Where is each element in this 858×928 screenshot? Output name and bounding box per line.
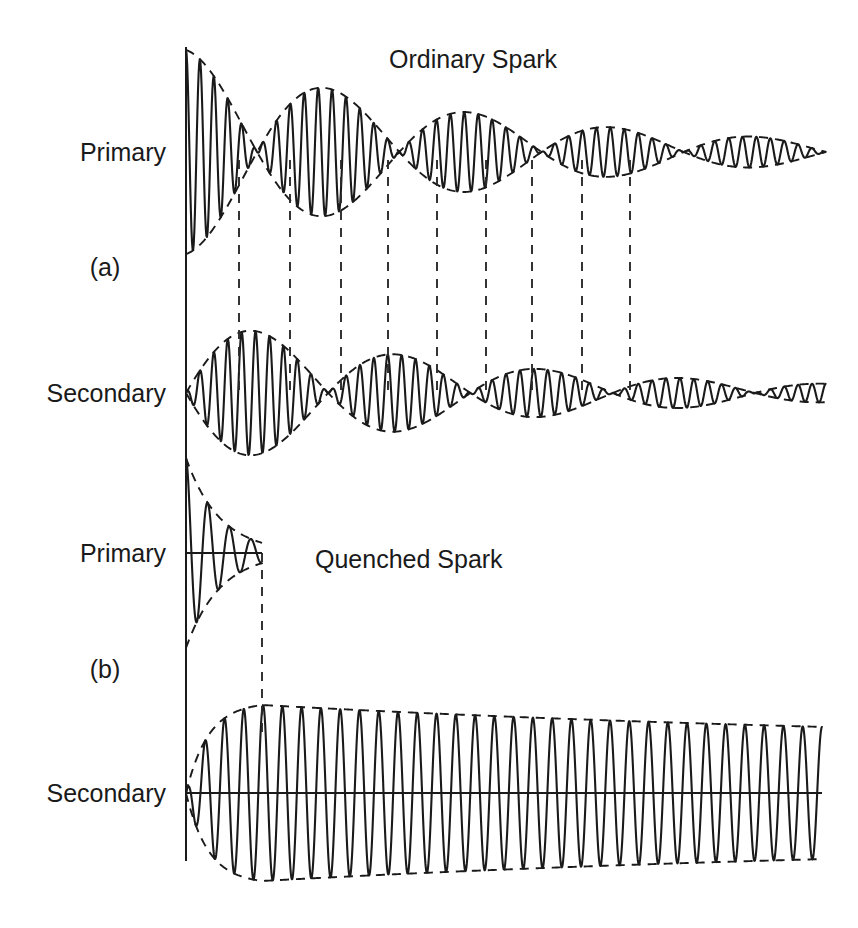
ordinary-primary-waveform [186,50,826,250]
ordinary-secondary-envelope-lower [186,393,826,455]
label-quenched-primary: Primary [80,539,167,567]
figure-root: Ordinary Spark Primary (a) Secondary [0,0,858,928]
ordinary-secondary-waveform [186,331,826,455]
panel-ordinary-spark: Ordinary Spark Primary (a) Secondary [46,45,825,455]
spark-waveform-figure: Ordinary Spark Primary (a) Secondary [0,0,858,928]
panel-quenched-spark: Quenched Spark Primary (b) Secondary [46,450,822,881]
quenched-spark-title: Quenched Spark [315,545,503,573]
ordinary-primary-trace [186,50,826,254]
label-ordinary-primary: Primary [80,138,167,166]
quenched-primary-trace [186,458,262,648]
label-quenched-secondary: Secondary [46,779,166,807]
ordinary-primary-envelope-lower [186,152,826,254]
label-ordinary-secondary: Secondary [46,379,166,407]
quenched-primary-waveform [186,458,262,622]
quenched-secondary-trace [186,705,822,881]
panel-label-b: (b) [90,655,121,683]
ordinary-secondary-trace [186,331,826,455]
quenched-primary-envelope-upper [186,458,262,543]
ordinary-spark-title: Ordinary Spark [389,45,558,73]
panel-label-a: (a) [90,253,121,281]
quenched-primary-envelope-lower [186,563,262,648]
